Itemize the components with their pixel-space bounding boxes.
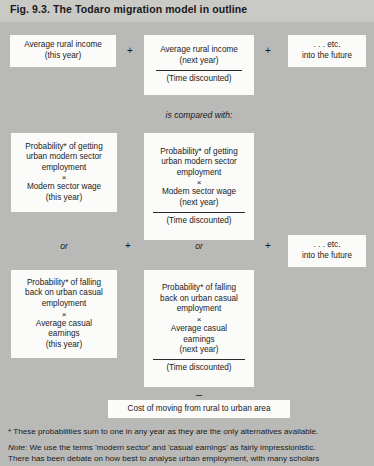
- footnote-note-line1: Note: We use the terms 'modern sector' a…: [8, 442, 368, 454]
- box-modern-sector-this-year: Probability* of getting urban modern sec…: [11, 133, 117, 212]
- box-line: Average rural income: [160, 45, 238, 56]
- box-line: earnings: [183, 335, 214, 346]
- fraction-bar: [153, 359, 245, 360]
- multiplication-symbol: ×: [62, 173, 67, 182]
- footnote-note-line2: There has been debate on how best to ana…: [8, 453, 368, 465]
- box-line: employment: [42, 163, 87, 174]
- box-line: . . . etc.: [314, 240, 341, 251]
- box-etc-into-the-future-row2: . . . etc. into the future: [288, 235, 366, 267]
- operator-minus: –: [179, 388, 219, 400]
- figure-todaro-migration-model: Fig. 9.3. The Todaro migration model in …: [0, 0, 374, 466]
- operator-plus-row2-a: +: [118, 240, 138, 251]
- figure-notes: * These probabilities sum to one in any …: [8, 426, 368, 465]
- figure-number: Fig. 9.3.: [10, 3, 50, 15]
- box-line: Probability* of falling: [27, 278, 101, 289]
- box-modern-sector-next-year: Probability* of getting urban modern sec…: [144, 133, 254, 240]
- figure-caption: Fig. 9.3. The Todaro migration model in …: [10, 3, 247, 15]
- connector-is-compared-with: is compared with:: [144, 110, 254, 120]
- box-line: employment: [177, 168, 222, 179]
- box-line: back on urban casual: [25, 288, 103, 299]
- box-average-rural-income-this-year: Average rural income (this year): [10, 35, 116, 67]
- box-line: Average casual: [36, 319, 92, 330]
- fraction-bar: [153, 212, 245, 213]
- box-line: (this year): [45, 51, 81, 62]
- box-cost-of-moving: Cost of moving from rural to urban area: [108, 400, 290, 418]
- operator-or-middle: or: [181, 241, 217, 251]
- box-denominator: (Time discounted): [166, 216, 231, 227]
- operator-or-left: or: [46, 241, 82, 251]
- box-line: employment: [177, 304, 222, 315]
- box-line: earnings: [48, 329, 79, 340]
- figure-title-text: The Todaro migration model in outline: [53, 3, 247, 15]
- box-casual-earnings-this-year: Probability* of falling back on urban ca…: [11, 270, 117, 358]
- box-line: (next year): [179, 198, 218, 209]
- box-line: (this year): [46, 193, 82, 204]
- box-denominator: (Time discounted): [166, 363, 231, 374]
- operator-plus-row1-b: +: [260, 45, 276, 56]
- box-line: Modern sector wage: [27, 182, 101, 193]
- box-average-rural-income-next-year: Average rural income (next year) (Time d…: [144, 35, 254, 95]
- box-line: Modern sector wage: [162, 187, 236, 198]
- multiplication-symbol: ×: [62, 310, 67, 319]
- footnote-asterisk: * These probabilities sum to one in any …: [8, 426, 368, 438]
- box-line: Probability* of getting: [25, 142, 102, 153]
- box-line: into the future: [302, 51, 352, 62]
- box-etc-into-the-future-row1: . . . etc. into the future: [288, 35, 366, 67]
- box-line: Average rural income: [24, 40, 102, 51]
- footnote-note-text1: We use the terms 'modern sector' and 'ca…: [30, 443, 316, 452]
- box-line: into the future: [302, 251, 352, 262]
- box-line: Probability* of falling: [162, 283, 236, 294]
- box-line: urban modern sector: [26, 152, 102, 163]
- box-line: (next year): [179, 345, 218, 356]
- box-line: back on urban casual: [160, 294, 238, 305]
- multiplication-symbol: ×: [197, 315, 202, 324]
- footnote-note: Note: We use the terms 'modern sector' a…: [8, 442, 368, 465]
- operator-plus-row2-b: +: [258, 240, 278, 251]
- footnote-note-label: Note:: [8, 443, 27, 452]
- box-line: employment: [42, 299, 87, 310]
- fraction-bar: [156, 70, 242, 71]
- multiplication-symbol: ×: [197, 178, 202, 187]
- box-denominator: (Time discounted): [166, 74, 231, 85]
- box-line: Probability* of getting: [160, 147, 237, 158]
- box-line: (this year): [46, 340, 82, 351]
- operator-plus-row1-a: +: [122, 45, 138, 56]
- box-line: . . . etc.: [314, 40, 341, 51]
- box-line: Average casual: [171, 324, 227, 335]
- box-casual-earnings-next-year: Probability* of falling back on urban ca…: [144, 270, 254, 387]
- box-line: (next year): [179, 56, 218, 67]
- box-line: urban modern sector: [161, 157, 237, 168]
- box-line: Cost of moving from rural to urban area: [128, 404, 271, 415]
